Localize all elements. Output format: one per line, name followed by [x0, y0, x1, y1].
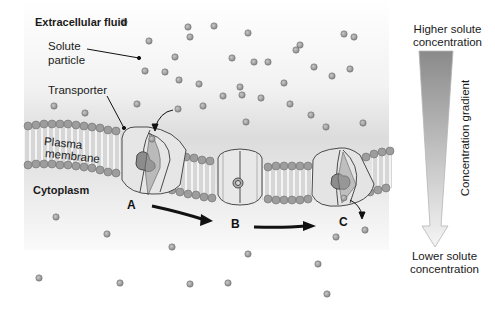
solute-particle	[175, 106, 181, 112]
stage-a-label: A	[127, 198, 136, 212]
solute-particle	[220, 93, 226, 99]
solute-particle	[360, 120, 366, 126]
solute-particle	[323, 124, 329, 130]
solute-particle	[225, 280, 231, 286]
solute-particle	[117, 280, 123, 286]
solute-particle	[53, 214, 59, 220]
solute-particle	[162, 69, 168, 75]
solute-particle	[293, 47, 299, 53]
solute-particle	[187, 34, 193, 40]
solute-particle	[243, 119, 249, 125]
solute-particle	[281, 80, 287, 86]
transporter-label: Transporter	[48, 84, 107, 97]
higher-concentration-line1: Higher solute	[400, 23, 495, 36]
solute-particle	[187, 281, 193, 287]
solute-particle	[258, 95, 264, 101]
solute-particle	[245, 251, 251, 257]
solute-particle	[315, 261, 321, 267]
solute-particle	[237, 84, 243, 90]
solute-particle	[211, 23, 217, 29]
solute-particle	[142, 68, 148, 74]
lower-concentration-line1: Lower solute	[397, 250, 492, 263]
solute-particle	[229, 55, 235, 61]
solute-particle	[200, 103, 206, 109]
cytoplasm-label: Cytoplasm	[33, 184, 89, 197]
solute-particle	[308, 112, 314, 118]
extracellular-fluid-label: Extracellular fluid	[35, 16, 127, 29]
solute-particle	[333, 234, 339, 240]
lower-concentration-line2: concentration	[397, 263, 492, 276]
solute-particle	[51, 103, 57, 109]
solute-label-line2: particle	[48, 54, 85, 67]
solute-particle	[347, 66, 353, 72]
solute-particle	[36, 275, 42, 281]
solute-particle	[169, 244, 175, 250]
concentration-gradient-label: Concentration gradient	[459, 73, 471, 203]
higher-concentration-line2: concentration	[400, 36, 495, 49]
solute-particle	[176, 77, 182, 83]
solute-particle	[82, 110, 88, 116]
higher-concentration-label: Higher solute concentration	[400, 23, 495, 49]
concentration-gradient-arrow	[419, 51, 453, 247]
solute-particle	[239, 92, 245, 98]
solute-particle	[251, 59, 257, 65]
stage-b-label: B	[231, 217, 240, 231]
solute-particle	[172, 54, 178, 60]
solute-particle	[341, 31, 347, 37]
solute-particle	[245, 30, 251, 36]
solute-particle	[104, 231, 110, 237]
solute-particle	[324, 291, 330, 297]
diagram-canvas: Extracellular fluid Solute particle Tran…	[0, 0, 495, 311]
solute-label-line1: Solute	[48, 40, 81, 53]
solute-particle	[362, 227, 368, 233]
solute-particle	[185, 24, 191, 30]
solute-particle	[134, 101, 140, 107]
solute-particle	[265, 59, 271, 65]
lower-concentration-label: Lower solute concentration	[397, 250, 492, 276]
solute-particle	[351, 34, 357, 40]
solute-particle	[311, 64, 317, 70]
solute-particle	[146, 38, 152, 44]
solute-particle	[196, 81, 202, 87]
solute-particle	[287, 101, 293, 107]
transporter-b	[218, 149, 262, 205]
stage-c-label: C	[339, 215, 348, 229]
solute-particle	[329, 73, 335, 79]
